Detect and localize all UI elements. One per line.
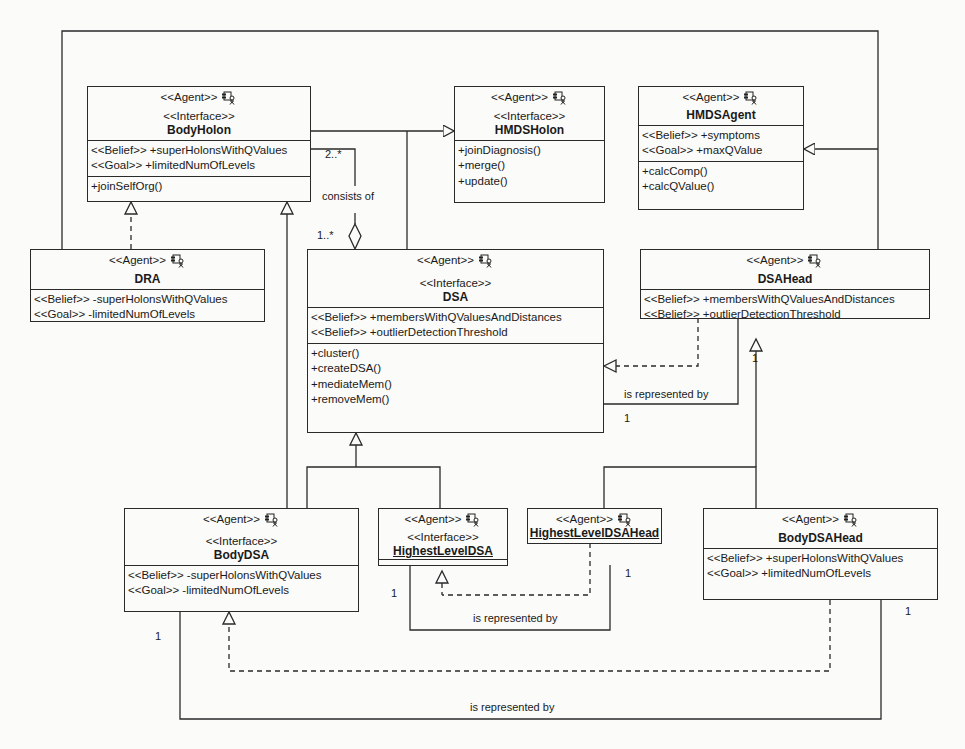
attribute: <<Belief>> +symptoms (642, 128, 800, 144)
class-name: HighestLevelDSAHead (528, 526, 661, 541)
operation: +joinSelfOrg() (91, 179, 307, 195)
agent-icon (807, 254, 823, 268)
stereotype-agent: <<Agent>> (109, 254, 166, 266)
multiplicity-one: 1 (624, 412, 630, 424)
agent-icon (221, 91, 237, 105)
attribute: <<Belief>> +membersWithQValuesAndDistanc… (644, 292, 926, 308)
stereotype-agent: <<Agent>> (782, 513, 839, 525)
stereotype-agent: <<Agent>> (417, 254, 474, 266)
attribute: <<Belief>> +superHolonsWithQValues (91, 143, 307, 159)
attributes: <<Belief>> +symptoms <<Goal>> +maxQValue (639, 125, 803, 161)
attributes-empty (379, 559, 507, 564)
stereotype-agent: <<Agent>> (556, 513, 613, 525)
operation: +cluster() (311, 346, 600, 362)
operation: +mediateMem() (311, 377, 600, 393)
stereotype-interface: <<Interface>> (88, 109, 310, 123)
operations: +joinSelfOrg() (88, 176, 310, 197)
attributes: <<Belief>> +superHolonsWithQValues <<Goa… (704, 548, 937, 584)
class-hmds-holon[interactable]: <<Agent>> <<Interface>> HMDSHolon +joinD… (454, 86, 605, 203)
agent-icon (743, 91, 759, 105)
class-dra[interactable]: <<Agent>> DRA <<Belief>> -superHolonsWit… (30, 249, 265, 322)
operation: +joinDiagnosis() (458, 143, 601, 159)
class-highest-level-dsa[interactable]: <<Agent>> <<Interface>> HighestLevelDSA (378, 508, 508, 566)
agent-icon (465, 513, 481, 527)
attribute: <<Goal>> +limitedNumOfLevels (91, 158, 307, 174)
attributes: <<Belief>> -superHolonsWithQValues <<Goa… (125, 565, 358, 601)
class-dsa[interactable]: <<Agent>> <<Interface>> DSA <<Belief>> +… (307, 249, 604, 433)
class-body-holon[interactable]: <<Agent>> <<Interface>> BodyHolon <<Beli… (87, 86, 311, 202)
class-name: DSAHead (641, 272, 929, 289)
label-is-represented-by-dsa: is represented by (624, 388, 708, 400)
agent-icon (478, 254, 494, 268)
attributes: <<Belief>> +membersWithQValuesAndDistanc… (641, 289, 929, 325)
class-name: HMDSAgent (639, 108, 803, 125)
agent-icon (843, 513, 859, 527)
stereotype-agent: <<Agent>> (747, 254, 804, 266)
attribute: <<Belief>> -superHolonsWithQValues (128, 568, 355, 584)
class-name: BodyHolon (88, 123, 310, 140)
stereotype-interface: <<Interface>> (379, 530, 507, 544)
attribute: <<Belief>> -superHolonsWithQValues (34, 292, 261, 308)
attributes: <<Belief>> -superHolonsWithQValues <<Goa… (31, 289, 264, 325)
attribute: <<Belief>> +outlierDetectionThreshold (311, 325, 600, 341)
stereotype-agent: <<Agent>> (161, 91, 218, 103)
multiplicity-one: 1 (625, 567, 631, 579)
stereotype-interface: <<Interface>> (455, 109, 604, 123)
stereotype-agent: <<Agent>> (203, 513, 260, 525)
multiplicity-one: 1 (391, 587, 397, 599)
class-hmds-agent[interactable]: <<Agent>> HMDSAgent <<Belief>> +symptoms… (638, 86, 804, 210)
attribute: <<Goal>> +maxQValue (642, 143, 800, 159)
attributes: <<Belief>> +superHolonsWithQValues <<Goa… (88, 140, 310, 176)
class-highest-level-dsa-head[interactable]: <<Agent>> HighestLevelDSAHead (527, 508, 662, 544)
attribute: <<Belief>> +outlierDetectionThreshold (644, 307, 926, 323)
class-name: BodyDSA (125, 548, 358, 565)
operation: +removeMem() (311, 392, 600, 408)
stereotype-agent: <<Agent>> (491, 91, 548, 103)
multiplicity-2-many: 2..* (325, 148, 342, 160)
attribute: <<Belief>> +superHolonsWithQValues (707, 551, 934, 567)
class-dsa-head[interactable]: <<Agent>> DSAHead <<Belief>> +membersWit… (640, 249, 930, 319)
operation: +calcQValue() (642, 179, 800, 195)
agent-icon (617, 513, 633, 527)
label-consists-of: consists of (322, 190, 374, 202)
stereotype-interface: <<Interface>> (308, 276, 603, 290)
label-is-represented-by-highest: is represented by (473, 612, 557, 624)
class-name: HMDSHolon (455, 123, 604, 140)
agent-icon (552, 91, 568, 105)
agent-icon (170, 254, 186, 268)
multiplicity-1-many: 1..* (317, 229, 334, 241)
operation: +createDSA() (311, 361, 600, 377)
label-is-represented-by-body: is represented by (470, 701, 554, 713)
class-name: HighestLevelDSA (379, 544, 507, 559)
class-body-dsa[interactable]: <<Agent>> <<Interface>> BodyDSA <<Belief… (124, 508, 359, 612)
attribute: <<Goal>> +limitedNumOfLevels (707, 566, 934, 582)
stereotype-agent: <<Agent>> (683, 91, 740, 103)
operation: +merge() (458, 158, 601, 174)
class-body-dsa-head[interactable]: <<Agent>> BodyDSAHead <<Belief>> +superH… (703, 508, 938, 600)
multiplicity-one: 1 (752, 352, 758, 364)
attribute: <<Goal>> -limitedNumOfLevels (34, 307, 261, 323)
operations: +cluster() +createDSA() +mediateMem() +r… (308, 343, 603, 410)
attributes: <<Belief>> +membersWithQValuesAndDistanc… (308, 307, 603, 343)
attribute: <<Goal>> -limitedNumOfLevels (128, 583, 355, 599)
multiplicity-one: 1 (155, 630, 161, 642)
operation: +update() (458, 174, 601, 190)
operations: +calcComp() +calcQValue() (639, 161, 803, 197)
agent-icon (264, 513, 280, 527)
class-name: DSA (308, 290, 603, 307)
operations: +joinDiagnosis() +merge() +update() (455, 140, 604, 192)
class-name: BodyDSAHead (704, 531, 937, 548)
operation: +calcComp() (642, 164, 800, 180)
multiplicity-one: 1 (905, 605, 911, 617)
stereotype-interface: <<Interface>> (125, 534, 358, 548)
attribute: <<Belief>> +membersWithQValuesAndDistanc… (311, 310, 600, 326)
class-name: DRA (31, 272, 264, 289)
stereotype-agent: <<Agent>> (405, 513, 462, 525)
